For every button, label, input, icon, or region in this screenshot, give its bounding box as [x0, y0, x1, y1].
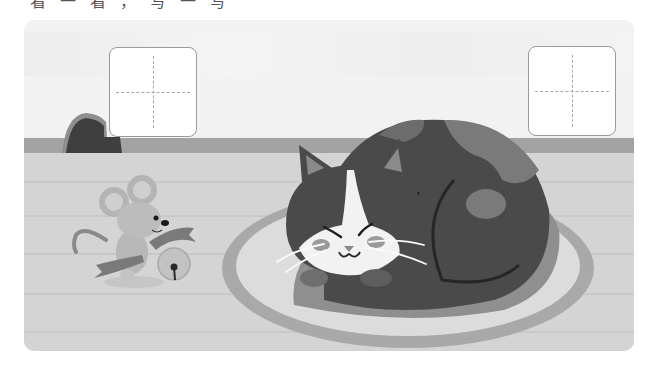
writing-box-left[interactable] — [109, 47, 197, 137]
guide-line-horizontal — [116, 92, 190, 93]
guide-line-horizontal — [535, 91, 609, 92]
sleeping-cat-icon — [277, 120, 559, 318]
header-text-cutoff: 看一看，写一写 — [30, 0, 240, 12]
mouse-with-bell-icon — [74, 175, 196, 288]
writing-box-right[interactable] — [528, 46, 616, 136]
